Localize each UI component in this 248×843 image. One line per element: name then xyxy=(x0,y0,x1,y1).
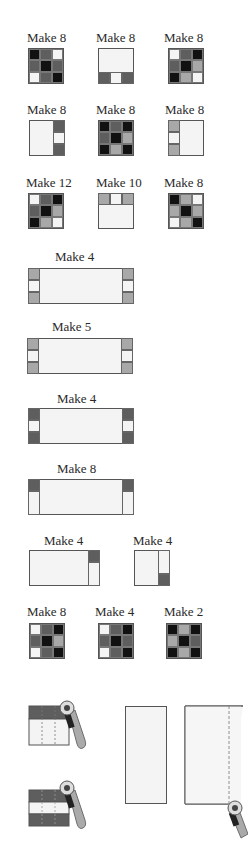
patch-cell-black xyxy=(169,194,180,205)
rotary-cutter-strip-set-1 xyxy=(25,700,95,760)
patch-cell-dark xyxy=(40,49,51,60)
patch-cell-black xyxy=(190,624,201,635)
cell-medium xyxy=(122,292,134,304)
block-bar-3b xyxy=(98,193,134,229)
cell-light xyxy=(28,280,40,292)
rect-label-2: Make 4 xyxy=(133,534,172,548)
patch-cell-black xyxy=(122,647,133,658)
cell-dark xyxy=(122,408,134,420)
patch-cell-medium xyxy=(169,205,180,216)
patch-cell-black xyxy=(29,217,40,228)
patch-cell-dark xyxy=(29,205,40,216)
patch-cell-black xyxy=(29,49,40,60)
strip2-label: Make 5 xyxy=(52,320,91,334)
patch-cell-light xyxy=(29,194,40,205)
block-nine-patch-2b xyxy=(98,120,134,156)
cell-medium xyxy=(28,292,40,304)
cell-light xyxy=(158,550,170,574)
cell-medium xyxy=(122,193,134,205)
row2-label-3: Make 8 xyxy=(165,103,204,117)
patch-cell-black xyxy=(178,635,189,646)
cell-light xyxy=(122,420,134,432)
strip-block-2 xyxy=(27,338,133,374)
cell-dark xyxy=(53,144,65,156)
rect-block-2 xyxy=(134,550,170,586)
strip1-label: Make 4 xyxy=(55,250,94,264)
block-nine-patch-1c xyxy=(168,48,204,84)
cell-medium xyxy=(27,338,39,350)
row3-label-3: Make 8 xyxy=(164,176,203,190)
patch-cell-medium xyxy=(178,624,189,635)
patch-cell-dark xyxy=(180,49,191,60)
patch-cell-black xyxy=(99,144,110,155)
patch-cell-light xyxy=(99,647,110,658)
block-bar-1b xyxy=(98,48,134,84)
cell-dark xyxy=(122,432,134,444)
cell-dark xyxy=(158,574,170,586)
last-label-1: Make 8 xyxy=(27,605,66,619)
cell-light xyxy=(28,491,40,515)
cell-dark xyxy=(122,479,134,491)
patch-cell-medium xyxy=(40,217,51,228)
patch-cell-black xyxy=(40,60,51,71)
patch-cell-dark xyxy=(99,635,110,646)
row3-label-1: Make 12 xyxy=(26,176,72,190)
patch-cell-dark xyxy=(122,635,133,646)
patch-cell-dark xyxy=(40,194,51,205)
plain-rectangle xyxy=(125,706,167,804)
row2-label-1: Make 8 xyxy=(27,103,66,117)
patch-cell-black xyxy=(167,624,178,635)
patch-cell-black xyxy=(167,647,178,658)
patch-cell-black xyxy=(110,132,121,143)
patch-cell-black xyxy=(53,647,64,658)
patch-cell-dark xyxy=(110,624,121,635)
patch-cell-black xyxy=(40,205,51,216)
patch-cell-dark xyxy=(110,121,121,132)
patch-cell-black xyxy=(53,624,64,635)
cell-medium xyxy=(122,268,134,280)
patch-cell-light xyxy=(52,217,63,228)
cell-dark xyxy=(28,408,40,420)
cell-light xyxy=(122,280,134,292)
patch-cell-medium xyxy=(192,205,203,216)
block-side-bar-2a xyxy=(29,120,65,156)
strip-block-3 xyxy=(28,408,134,444)
cell-medium xyxy=(168,120,180,132)
patch-cell-black xyxy=(192,49,203,60)
patch-cell-medium xyxy=(180,72,191,83)
cell-dark xyxy=(122,72,134,84)
patch-cell-dark xyxy=(110,647,121,658)
patch-cell-light xyxy=(169,217,180,228)
patch-cell-black xyxy=(180,60,191,71)
row3-label-2: Make 10 xyxy=(96,176,142,190)
block-nine-patch-last-c xyxy=(166,623,202,659)
cell-light xyxy=(28,420,40,432)
patch-cell-dark xyxy=(41,647,52,658)
patch-cell-light xyxy=(192,72,203,83)
row1-label-3: Make 8 xyxy=(164,31,203,45)
patch-cell-light xyxy=(192,194,203,205)
patch-cell-medium xyxy=(52,205,63,216)
cell-light xyxy=(110,72,122,84)
cell-medium xyxy=(27,362,39,374)
cell-light xyxy=(110,193,122,205)
patch-cell-black xyxy=(52,194,63,205)
patch-cell-black xyxy=(99,121,110,132)
cell-light xyxy=(53,132,65,144)
strip-block-1 xyxy=(28,268,134,304)
cell-dark xyxy=(88,550,100,562)
cell-medium xyxy=(168,144,180,156)
block-nine-patch-last-b xyxy=(98,623,134,659)
rectangle-with-cut-line xyxy=(183,700,248,843)
cell-light xyxy=(88,562,100,586)
cell-dark xyxy=(28,479,40,491)
patch-cell-light xyxy=(29,72,40,83)
patch-cell-dark xyxy=(169,60,180,71)
patch-cell-medium xyxy=(110,144,121,155)
patch-cell-black xyxy=(180,205,191,216)
patch-cell-black xyxy=(41,635,52,646)
patch-cell-dark xyxy=(40,72,51,83)
patch-cell-dark xyxy=(190,635,201,646)
last-label-3: Make 2 xyxy=(164,605,203,619)
block-nine-patch-1a xyxy=(28,48,64,84)
